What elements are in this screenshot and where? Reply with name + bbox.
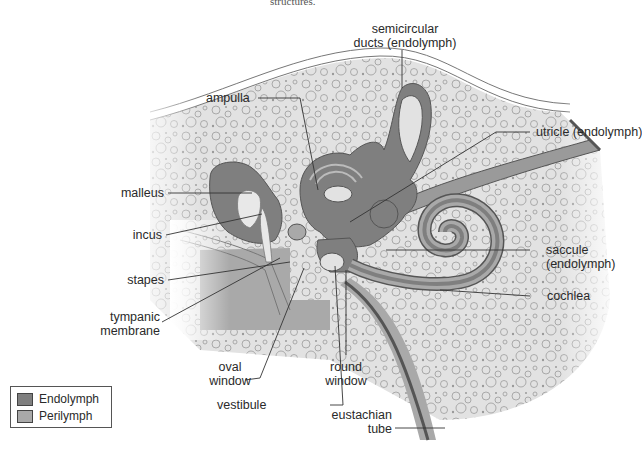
label-saccule: saccule (endolymph) [546,243,615,271]
label-utricle: utricle (endolymph) [536,125,642,139]
legend-label: Perilymph [39,409,92,423]
label-oval-window: oval window [205,360,255,388]
label-tympanic-membrane: tympanic membrane [80,310,160,338]
label-ampulla: ampulla [206,91,250,105]
label-round-window: round window [320,360,372,388]
label-stapes: stapes [100,273,164,287]
legend-label: Endolymph [39,392,99,406]
endolymph-swatch [17,393,33,406]
perilymph-swatch [17,410,33,423]
legend: Endolymph Perilymph [10,386,112,428]
legend-item-perilymph: Perilymph [17,409,92,423]
legend-item-endolymph: Endolymph [17,392,99,406]
label-vestibule: vestibule [217,398,266,412]
caption-fragment: structures. [270,0,316,7]
label-cochlea: cochlea [547,289,590,303]
label-incus: incus [100,228,162,242]
label-malleus: malleus [100,186,164,200]
label-eustachian-tube: eustachian tube [320,408,392,436]
label-semicircular-ducts: semicircular ducts (endolymph) [350,22,460,50]
